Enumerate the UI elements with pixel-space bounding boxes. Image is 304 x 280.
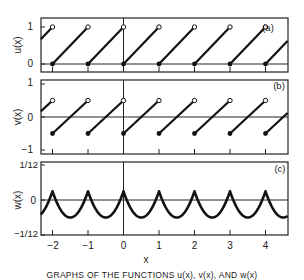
panel-v-ytick-1: 1	[27, 77, 33, 88]
panel-v: 1 0 −1 v(x) (b)	[12, 77, 288, 155]
open-endpoint-circle	[121, 25, 125, 29]
panel-u-ylabel: u(x)	[12, 36, 23, 53]
filled-endpoint-dot	[228, 131, 233, 136]
open-endpoint-circle	[50, 25, 54, 29]
filled-endpoint-dot	[157, 131, 162, 136]
panel-w-label: (c)	[274, 163, 285, 174]
filled-endpoint-dot	[50, 131, 55, 136]
filled-endpoint-dot	[228, 62, 233, 67]
xtick-label: 2	[192, 240, 198, 251]
panel-u-ytick-0: 0	[27, 58, 33, 69]
xtick-label: 3	[227, 240, 233, 251]
xtick-label: −2	[47, 240, 59, 251]
open-endpoint-circle	[50, 98, 54, 102]
filled-endpoint-dot	[263, 62, 268, 67]
xtick-label: −1	[82, 240, 94, 251]
filled-endpoint-dot	[192, 62, 197, 67]
filled-endpoint-dot	[50, 62, 55, 67]
chart-svg: 1 0 u(x) (a) 1 0 −1 v(x) (b) 1/12 0 −1/1…	[0, 0, 304, 280]
panel-u-plot	[41, 18, 288, 72]
filled-endpoint-dot	[263, 131, 268, 136]
panel-u: 1 0 u(x) (a)	[12, 18, 288, 72]
data-segment	[53, 27, 89, 64]
xtick-label: 0	[121, 240, 127, 251]
open-endpoint-circle	[121, 98, 125, 102]
open-endpoint-circle	[192, 98, 196, 102]
data-segment	[88, 27, 124, 64]
xtick-label: 1	[156, 240, 162, 251]
panel-w: 1/12 0 −1/12 w(x) (c)	[12, 159, 288, 239]
panel-w-ytick-pos: 1/12	[20, 159, 39, 170]
filled-endpoint-dot	[157, 62, 162, 67]
data-segment	[159, 27, 195, 64]
open-endpoint-circle	[228, 98, 232, 102]
filled-endpoint-dot	[121, 62, 126, 67]
data-segment	[266, 41, 288, 64]
panel-v-ytick-neg1: −1	[22, 144, 34, 155]
filled-endpoint-dot	[121, 131, 126, 136]
open-endpoint-circle	[157, 98, 161, 102]
panel-w-ytick-0: 0	[30, 195, 36, 206]
panel-v-plot	[41, 80, 288, 154]
filled-endpoint-dot	[86, 62, 91, 67]
x-axis-label: x	[144, 254, 149, 265]
data-segment	[124, 27, 160, 64]
open-endpoint-circle	[157, 25, 161, 29]
filled-endpoint-dot	[86, 131, 91, 136]
open-endpoint-circle	[86, 98, 90, 102]
figure: 1 0 u(x) (a) 1 0 −1 v(x) (b) 1/12 0 −1/1…	[0, 0, 304, 280]
panel-v-label: (b)	[273, 80, 285, 91]
open-endpoint-circle	[228, 25, 232, 29]
figure-caption: GRAPHS OF THE FUNCTIONS u(x), v(x), AND …	[0, 270, 304, 280]
panel-v-ytick-0: 0	[27, 112, 33, 123]
panel-w-frame	[41, 162, 288, 235]
panel-v-ylabel: v(x)	[12, 109, 23, 126]
data-segment	[195, 27, 231, 64]
panel-u-ytick-1: 1	[27, 21, 33, 32]
data-segment	[230, 27, 266, 64]
data-segment	[266, 113, 288, 133]
open-endpoint-circle	[192, 25, 196, 29]
panel-u-label: (a)	[262, 22, 274, 33]
panel-w-ylabel: w(x)	[12, 191, 23, 211]
x-axis-tick-labels: −2 −1 0 1 2 3 4	[47, 240, 268, 251]
open-endpoint-circle	[263, 98, 267, 102]
panel-w-ytick-neg: −1/12	[14, 228, 38, 239]
panel-w-plot	[41, 162, 288, 235]
filled-endpoint-dot	[192, 131, 197, 136]
w-curve	[41, 191, 288, 217]
xtick-label: 4	[263, 240, 269, 251]
open-endpoint-circle	[86, 25, 90, 29]
